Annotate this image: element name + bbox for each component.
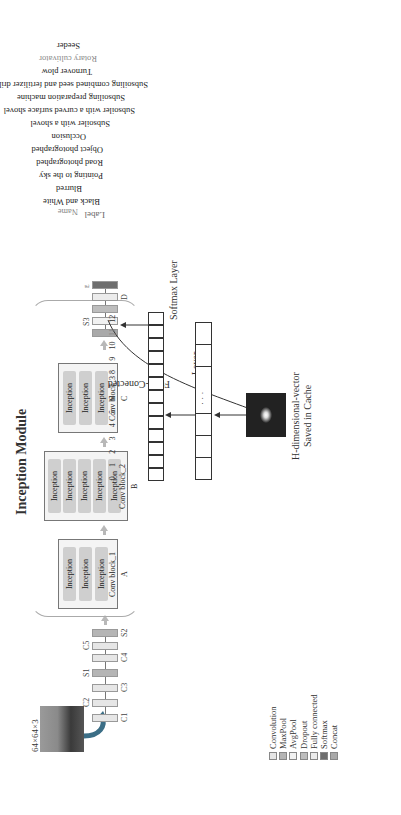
feature-label-line1: H-dimensional-vector xyxy=(290,372,301,460)
class-name: Occlusion xyxy=(52,132,86,142)
layer-s1 xyxy=(92,669,118,677)
arrow-b-to-c xyxy=(103,443,106,447)
label-value: 3 xyxy=(108,432,122,445)
layer-c5-label: C5 xyxy=(82,641,91,650)
legend-item-fully-connected: Fully connected xyxy=(309,694,319,760)
softmax-cell xyxy=(148,351,164,364)
arrow-a-to-b xyxy=(103,531,106,535)
input-size-label: 64×64×3 xyxy=(30,719,40,752)
label-header: Label xyxy=(85,210,106,220)
class-name: Object photographed xyxy=(31,145,103,155)
legend-label: AvgPool xyxy=(288,719,298,749)
softmax-cell xyxy=(148,390,164,403)
legend-swatch-convolution xyxy=(269,752,277,760)
fc-cell xyxy=(195,322,212,345)
layer-c2 xyxy=(92,699,118,707)
legend-swatch-maxpool xyxy=(279,752,287,760)
name-header: Name xyxy=(58,207,78,217)
label-value: 8 xyxy=(108,365,122,378)
fc-cell xyxy=(195,435,212,458)
fc-cell xyxy=(195,413,212,436)
label-value: 7 xyxy=(108,379,122,392)
legend-swatch-fully-connected xyxy=(310,752,318,760)
softmax-cell xyxy=(148,338,164,351)
arrow-head-icon xyxy=(100,525,108,531)
arrow-up-icon xyxy=(165,410,195,420)
legend-label: MaxPool xyxy=(278,718,288,749)
softmax-cell xyxy=(148,416,164,429)
softmax-cell xyxy=(148,468,164,481)
softmax-cell xyxy=(148,325,164,338)
class-name: Seeder xyxy=(57,41,80,51)
softmax-cell xyxy=(148,403,164,416)
layer-c5 xyxy=(92,642,118,650)
class-name: Black and White xyxy=(43,197,100,207)
layer-s2 xyxy=(92,629,118,637)
conv-block-a-name: Conv block_1 xyxy=(108,552,117,597)
softmax-cell xyxy=(148,312,164,325)
softmax-cell xyxy=(148,377,164,390)
class-name: Subsoiler with a shovel xyxy=(30,119,110,129)
legend-swatch-concat xyxy=(330,752,338,760)
label-value: 11 xyxy=(108,325,122,338)
layer-c2-label: C2 xyxy=(82,698,91,707)
layer-c1-label: C1 xyxy=(120,713,129,722)
arrow-up-icon xyxy=(120,320,148,330)
layer-e xyxy=(92,281,118,289)
class-name: Pointing to the sky xyxy=(39,171,103,181)
feature-map-image xyxy=(246,393,286,437)
label-value: 0 xyxy=(108,472,122,485)
label-value: 5 xyxy=(108,405,122,418)
feature-label-line2: Saved in Cache xyxy=(302,385,313,447)
inception-b-1: Inception xyxy=(48,459,61,513)
conv-block-b-id: B xyxy=(130,484,139,489)
softmax-label: Softmax Layer xyxy=(168,260,179,320)
inception-a-2: Inception xyxy=(79,547,92,601)
class-name-highlighted: Rotary cultivator xyxy=(39,54,97,64)
inception-c-1: Inception xyxy=(63,371,76,425)
class-name: Subsoiler with a curved surface shovel xyxy=(4,106,135,116)
layer-c4 xyxy=(92,654,118,662)
label-value: 4 xyxy=(108,419,122,432)
label-value: 6 xyxy=(108,392,122,405)
softmax-cell xyxy=(148,455,164,468)
layer-c1 xyxy=(92,714,118,722)
class-name: Turnover plow xyxy=(42,67,92,77)
legend-label: Softmax xyxy=(319,720,329,749)
inception-a-3: Inception xyxy=(95,547,108,601)
label-value: 9 xyxy=(108,352,122,365)
layer-s1-label: S1 xyxy=(82,669,91,677)
class-name: Road photographed xyxy=(36,158,103,168)
label-value: 10 xyxy=(108,339,122,352)
layer-s3-label: S3 xyxy=(82,318,91,326)
inception-b-3: Inception xyxy=(78,459,91,513)
class-name: Subsoiling combined seed and fertilizer … xyxy=(0,80,148,90)
inception-module-title: Inception Module xyxy=(14,409,30,515)
softmax-cell xyxy=(148,429,164,442)
arrow-up-icon xyxy=(214,410,246,420)
legend-swatch-avgpool xyxy=(289,752,297,760)
inception-c-2: Inception xyxy=(79,371,92,425)
label-value: 2 xyxy=(108,445,122,458)
legend-item-dropout: Dropout xyxy=(299,721,309,760)
layer-c3 xyxy=(92,684,118,692)
fc-dots: · · · xyxy=(197,392,207,406)
legend-swatch-softmax xyxy=(320,752,328,760)
arrow-into-module xyxy=(104,621,107,625)
label-value: 1 xyxy=(108,458,122,471)
layer-s2-label: S2 xyxy=(120,629,129,637)
fc-cell-dots xyxy=(195,366,212,414)
diagram-canvas: 64×64×3 C1 C2 C3 S1 C4 C5 S2 Inception M… xyxy=(0,0,401,815)
softmax-cell xyxy=(148,442,164,455)
legend-item-maxpool: MaxPool xyxy=(278,718,288,760)
inception-b-4: Inception xyxy=(93,459,106,513)
labels-row: 0 1 2 3 4 5 6 7 8 9 10 11 12 xyxy=(108,305,122,485)
fc-cell xyxy=(195,457,212,480)
legend-item-convolution: Convolution xyxy=(268,706,278,760)
legend-item-concat: Concat xyxy=(329,725,339,760)
legend: Convolution MaxPool AvgPool Dropout Full… xyxy=(268,680,348,760)
softmax-cells xyxy=(148,311,164,481)
arrow-head-icon xyxy=(100,437,108,443)
layer-e-label: E xyxy=(84,284,90,288)
fc-cell xyxy=(195,344,212,367)
